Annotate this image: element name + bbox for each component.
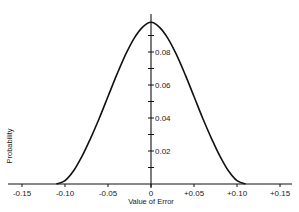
- y-tick-label: 0.02: [155, 147, 171, 156]
- x-tick-label: +0.10: [227, 189, 248, 198]
- x-tick-label: -0.05: [99, 189, 118, 198]
- y-tick-label: 0.04: [155, 114, 171, 123]
- y-axis-title: Probability: [5, 128, 14, 163]
- y-axis: 0.020.040.060.08: [148, 14, 171, 188]
- x-axis: -0.15-0.10-0.050+0.05+0.10+0.15: [8, 184, 292, 198]
- x-tick-label: -0.15: [13, 189, 32, 198]
- x-tick-label: -0.10: [56, 189, 75, 198]
- probability-chart: -0.15-0.10-0.050+0.05+0.10+0.15 0.020.04…: [0, 0, 299, 212]
- x-tick-label: +0.05: [184, 189, 205, 198]
- x-tick-label: +0.15: [270, 189, 291, 198]
- y-tick-label: 0.08: [155, 48, 171, 57]
- x-axis-title: Value of Error: [128, 197, 174, 206]
- y-tick-label: 0.06: [155, 81, 171, 90]
